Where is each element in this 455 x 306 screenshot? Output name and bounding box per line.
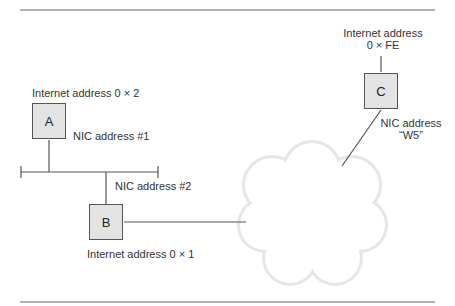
node-a-internet-address: Internet address 0 × 2 bbox=[32, 87, 139, 99]
node-c-internet-address-line1: Internet address bbox=[338, 27, 428, 39]
node-b-nic-address: NIC address #2 bbox=[115, 180, 191, 192]
node-c-internet-address-line2: 0 × FE bbox=[338, 39, 428, 51]
lan-bus bbox=[21, 140, 158, 204]
node-b-internet-address: Internet address 0 × 1 bbox=[87, 248, 194, 260]
node-c: C bbox=[364, 73, 398, 109]
node-a: A bbox=[32, 103, 66, 139]
node-c-nic-address-line2: “W5” bbox=[376, 129, 446, 141]
node-c-nic-address-line1: NIC address bbox=[376, 117, 446, 129]
network-cloud bbox=[237, 140, 388, 286]
node-b: B bbox=[89, 204, 123, 240]
node-a-nic-address: NIC address #1 bbox=[73, 130, 149, 142]
